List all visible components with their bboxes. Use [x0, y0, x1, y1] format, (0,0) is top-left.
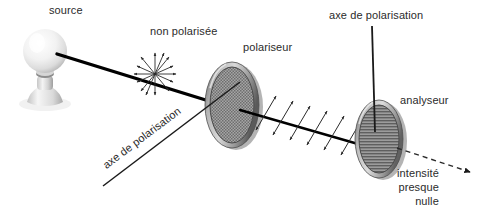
label-intensite-presque-nulle: intensité presque nulle — [397, 166, 439, 208]
label-polariseur: polariseur — [243, 41, 292, 53]
polarised-light-arrows — [256, 96, 361, 155]
label-analyseur: analyseur — [400, 94, 449, 106]
polariser-disk — [205, 62, 263, 150]
intensite-line-1: intensité — [397, 166, 439, 180]
polarised-light-beam — [240, 110, 372, 148]
light-source-lamp — [19, 29, 71, 111]
label-axe-de-polarisation-top: axe de polarisation — [329, 9, 423, 21]
polarisation-diagram: source non polarisée polariseur axe de p… — [0, 0, 481, 216]
intensite-line-2: presque — [397, 180, 439, 194]
label-non-polarisee: non polarisée — [150, 25, 217, 37]
intensite-line-3: nulle — [397, 194, 439, 208]
label-source: source — [49, 4, 83, 16]
